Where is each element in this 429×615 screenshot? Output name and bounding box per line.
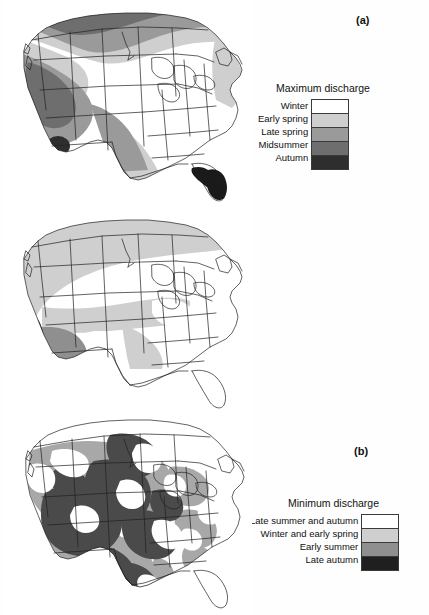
legend-a-label-autumn: Autumn <box>275 151 308 164</box>
legend-a-swatch-early-spring <box>312 114 348 128</box>
panel-letter-a: (a) <box>356 14 369 26</box>
legend-a: Maximum discharge Winter Early spring La… <box>258 82 370 170</box>
legend-a-labels: Winter Early spring Late spring Midsumme… <box>258 99 308 164</box>
panel-a: (a) Maximum discharge Winter Early sprin… <box>0 0 429 210</box>
map-a <box>2 0 252 210</box>
legend-a-swatch-late-spring <box>312 128 348 142</box>
legend-a-swatch-winter <box>312 100 348 114</box>
legend-a-label-winter: Winter <box>281 99 308 112</box>
legend-a-swatch-midsummer <box>312 142 348 156</box>
panel-b: (b) Minimum discharge Late summer and au… <box>0 205 429 417</box>
panel-c: (c) Dissolved solids < 270 mg l-1 270–19… <box>0 415 429 615</box>
legend-a-swatch-autumn <box>312 156 348 169</box>
legend-a-label-early-spring: Early spring <box>258 112 308 125</box>
map-b-svg <box>2 205 252 417</box>
legend-a-label-midsummer: Midsummer <box>259 138 309 151</box>
legend-a-label-late-spring: Late spring <box>261 125 308 138</box>
map-c <box>2 415 252 615</box>
map-b <box>2 205 252 417</box>
map-a-svg <box>2 0 252 210</box>
legend-a-swatches <box>311 99 349 170</box>
map-c-svg <box>2 415 252 615</box>
figure-container: (a) Maximum discharge Winter Early sprin… <box>0 0 429 615</box>
legend-a-title: Maximum discharge <box>276 82 370 94</box>
